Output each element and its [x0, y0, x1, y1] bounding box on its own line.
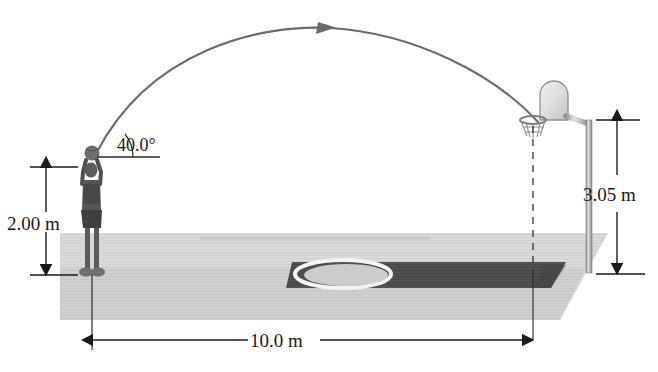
player-shorts: [81, 210, 102, 228]
physics-diagram-figure: 40.0° 2.00 m 3.05 m 10: [0, 0, 658, 372]
diagram-canvas: 40.0° 2.00 m 3.05 m 10: [0, 0, 658, 372]
free-throw-circle-fill: [304, 264, 388, 286]
ball-trajectory: [97, 22, 538, 152]
player-jersey: [83, 184, 100, 204]
trajectory-direction-arrow-icon: [316, 22, 336, 34]
backboard: [540, 81, 568, 120]
court-ground: [60, 233, 608, 320]
player-head: [85, 163, 98, 178]
player-right-shoe: [91, 268, 105, 277]
player-left-leg: [85, 228, 90, 270]
player-left-shoe: [79, 268, 93, 277]
launch-angle-label: 40.0°: [117, 135, 156, 155]
player-right-leg: [94, 228, 99, 270]
release-height-label: 2.00 m: [7, 213, 60, 234]
horizontal-distance-label: 10.0 m: [250, 330, 303, 351]
hoop-height-label: 3.05 m: [583, 184, 636, 205]
hoop-support-arm: [566, 116, 589, 124]
trajectory-path: [97, 28, 538, 152]
